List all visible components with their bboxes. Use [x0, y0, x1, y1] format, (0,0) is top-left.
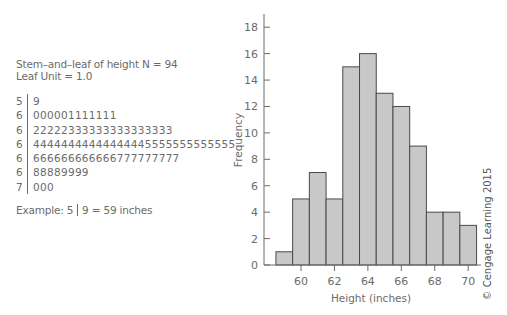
y-tick-label: 8: [251, 153, 258, 166]
x-tick-label: 64: [361, 275, 375, 288]
y-tick-label: 12: [244, 100, 258, 113]
y-axis-label: Frequency: [232, 113, 244, 167]
x-tick-label: 62: [327, 275, 341, 288]
histogram-bar: [360, 54, 377, 265]
histogram-bar: [460, 225, 477, 265]
y-tick-label: 4: [251, 206, 258, 219]
y-tick-label: 2: [251, 233, 258, 246]
x-tick-label: 70: [461, 275, 475, 288]
x-tick-label: 68: [428, 275, 442, 288]
y-tick-label: 6: [251, 180, 258, 193]
histogram-bar: [426, 212, 443, 265]
histogram-bar: [376, 93, 393, 265]
y-tick-label: 0: [251, 259, 258, 272]
histogram-bar: [443, 212, 460, 265]
y-tick-label: 14: [244, 74, 258, 87]
histogram-bar: [393, 106, 410, 265]
copyright-notice: © Cengage Learning 2015: [482, 181, 493, 301]
histogram-bar: [326, 199, 343, 265]
histogram-bar: [276, 252, 293, 265]
histogram-bar: [293, 199, 310, 265]
y-tick-label: 18: [244, 21, 258, 34]
histogram-bar: [410, 146, 427, 265]
y-tick-label: 16: [244, 48, 258, 61]
y-tick-label: 10: [244, 127, 258, 140]
x-tick-label: 60: [294, 275, 308, 288]
x-tick-label: 66: [394, 275, 408, 288]
histogram-bar: [309, 173, 326, 265]
histogram-bar: [343, 67, 360, 265]
histogram-chart: 024681012141618606264666870Height (inche…: [0, 0, 507, 315]
x-axis-label: Height (inches): [331, 292, 411, 304]
